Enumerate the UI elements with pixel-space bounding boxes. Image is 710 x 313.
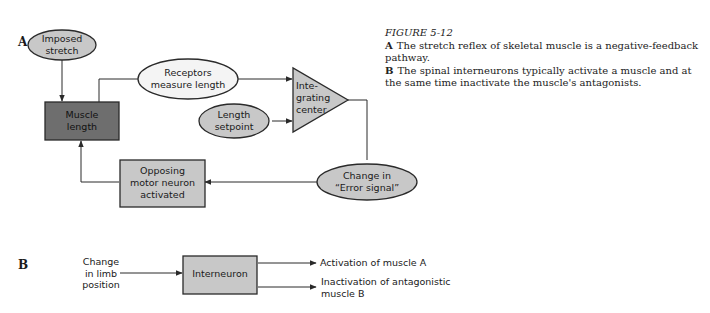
error-signal-line2: “Error signal”	[320, 182, 414, 194]
muscle-length-label: Muscle length	[45, 109, 119, 133]
imposed-stretch-line1: Imposed	[30, 33, 94, 45]
error-signal-label: Change in “Error signal”	[320, 170, 414, 194]
opposing-motor-label: Opposing motor neuron activated	[120, 165, 205, 201]
inactivation-line2: muscle B	[321, 288, 451, 300]
inactivation-line1: Inactivation of antagonistic	[321, 276, 451, 288]
opposing-motor-line3: activated	[120, 189, 205, 201]
input-line1: Change	[78, 256, 124, 268]
muscle-length-line1: Muscle	[45, 109, 119, 121]
caption-b-text: The spinal interneurons typically activa…	[385, 65, 692, 89]
integrating-center-line2: grating	[296, 92, 336, 104]
panel-a-letter: A	[18, 35, 27, 49]
figure-caption: FIGURE 5-12 AThe stretch reflex of skele…	[385, 27, 705, 90]
length-setpoint-label: Length setpoint	[200, 109, 268, 133]
receptors-label: Receptors measure length	[140, 67, 236, 91]
limb-position-input: Change in limb position	[78, 256, 124, 291]
inactivation-output: Inactivation of antagonistic muscle B	[321, 276, 451, 299]
caption-a: AThe stretch reflex of skeletal muscle i…	[385, 40, 705, 65]
muscle-length-line2: length	[45, 121, 119, 133]
receptors-line2: measure length	[140, 79, 236, 91]
integrating-center-line3: center	[296, 104, 336, 116]
receptors-line1: Receptors	[140, 67, 236, 79]
figure-title: FIGURE 5-12	[385, 27, 705, 40]
imposed-stretch-line2: stretch	[30, 45, 94, 57]
opposing-motor-line2: motor neuron	[120, 177, 205, 189]
stretch-reflex-figure: A Imposed stretch Muscle length Receptor…	[0, 0, 710, 313]
input-line2: in limb	[78, 268, 124, 280]
caption-a-text: The stretch reflex of skeletal muscle is…	[385, 40, 698, 64]
caption-b-letter: B	[385, 65, 393, 76]
imposed-stretch-label: Imposed stretch	[30, 33, 94, 57]
length-setpoint-line2: setpoint	[200, 121, 268, 133]
activation-output: Activation of muscle A	[320, 257, 426, 269]
integrating-center-line1: Inte-	[296, 80, 336, 92]
caption-a-letter: A	[385, 40, 393, 51]
interneuron-label: Interneuron	[183, 268, 257, 280]
input-line3: position	[78, 279, 124, 291]
opposing-motor-line1: Opposing	[120, 165, 205, 177]
error-signal-line1: Change in	[320, 170, 414, 182]
panel-b-letter: B	[18, 258, 28, 272]
caption-b: BThe spinal interneurons typically activ…	[385, 65, 705, 90]
integrating-center-label: Inte- grating center	[296, 80, 336, 116]
length-setpoint-line1: Length	[200, 109, 268, 121]
